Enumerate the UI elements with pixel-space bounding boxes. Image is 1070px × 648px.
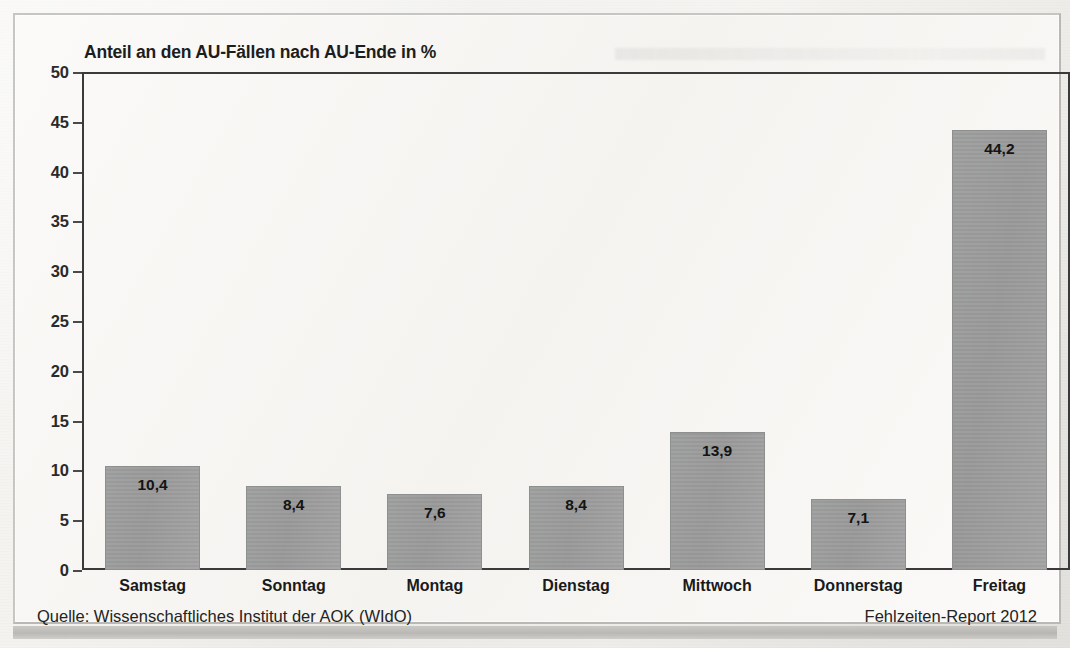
scan-artifact xyxy=(615,48,1045,60)
bar-column[interactable]: 13,9 xyxy=(670,432,765,570)
y-axis-tick xyxy=(73,470,82,472)
bar[interactable]: 10,4 xyxy=(105,466,200,570)
source-note: Quelle: Wissenschaftliches Institut der … xyxy=(37,607,412,626)
x-axis-category-label: Mittwoch xyxy=(647,577,788,595)
x-axis-category-label: Dienstag xyxy=(505,577,646,595)
y-axis-tick xyxy=(73,520,82,522)
bar-column[interactable]: 7,1 xyxy=(811,499,906,570)
y-axis-tick-label: 40 xyxy=(27,162,69,181)
page-bottom-strip xyxy=(13,626,1057,639)
y-axis-tick-label: 0 xyxy=(27,561,69,580)
y-axis-tick xyxy=(73,271,82,273)
bar-column[interactable]: 8,4 xyxy=(529,486,624,570)
y-axis-tick xyxy=(73,421,82,423)
bar[interactable]: 44,2 xyxy=(952,130,1047,570)
y-axis-tick xyxy=(73,172,82,174)
y-axis-tick xyxy=(73,570,82,572)
bar-value-label: 10,4 xyxy=(106,476,199,494)
x-axis-category-label: Freitag xyxy=(929,577,1070,595)
bar-column[interactable]: 10,4 xyxy=(105,466,200,570)
y-axis-tick-label: 45 xyxy=(27,112,69,131)
plot-area: 10,48,47,68,413,97,144,2 xyxy=(82,72,1070,570)
bar-value-label: 8,4 xyxy=(530,496,623,514)
y-axis-tick-label: 20 xyxy=(27,361,69,380)
y-axis-tick-label: 25 xyxy=(27,312,69,331)
y-axis-tick-label: 5 xyxy=(27,511,69,530)
y-axis-tick xyxy=(73,321,82,323)
x-axis-category-label: Montag xyxy=(364,577,505,595)
x-axis-category-label: Sonntag xyxy=(223,577,364,595)
y-axis-tick-label: 50 xyxy=(27,63,69,82)
y-axis-labels: 05101520253035404550 xyxy=(27,72,69,570)
figure-frame: Anteil an den AU-Fällen nach AU-Ende in … xyxy=(13,13,1061,624)
bar[interactable]: 7,6 xyxy=(387,494,482,570)
bar[interactable]: 7,1 xyxy=(811,499,906,570)
y-axis-tick-label: 30 xyxy=(27,262,69,281)
x-axis-category-label: Samstag xyxy=(82,577,223,595)
bar-value-label: 8,4 xyxy=(247,496,340,514)
bar-series: 10,48,47,68,413,97,144,2 xyxy=(82,72,1070,570)
x-axis-category-label: Donnerstag xyxy=(788,577,929,595)
y-axis-tick xyxy=(73,371,82,373)
y-axis-tick xyxy=(73,221,82,223)
y-axis-tick-label: 10 xyxy=(27,461,69,480)
bar-value-label: 44,2 xyxy=(953,140,1046,158)
chart-title: Anteil an den AU-Fällen nach AU-Ende in … xyxy=(84,42,436,63)
bar-column[interactable]: 44,2 xyxy=(952,130,1047,570)
bar[interactable]: 13,9 xyxy=(670,432,765,570)
bar-column[interactable]: 7,6 xyxy=(387,494,482,570)
bar[interactable]: 8,4 xyxy=(246,486,341,570)
bar-value-label: 13,9 xyxy=(671,442,764,460)
bar[interactable]: 8,4 xyxy=(529,486,624,570)
bar-value-label: 7,6 xyxy=(388,504,481,522)
y-axis-tick xyxy=(73,72,82,74)
bar-value-label: 7,1 xyxy=(812,509,905,527)
report-note: Fehlzeiten-Report 2012 xyxy=(865,607,1037,626)
y-axis-tick-label: 35 xyxy=(27,212,69,231)
y-axis-tick xyxy=(73,122,82,124)
y-axis-tick-label: 15 xyxy=(27,411,69,430)
bar-column[interactable]: 8,4 xyxy=(246,486,341,570)
